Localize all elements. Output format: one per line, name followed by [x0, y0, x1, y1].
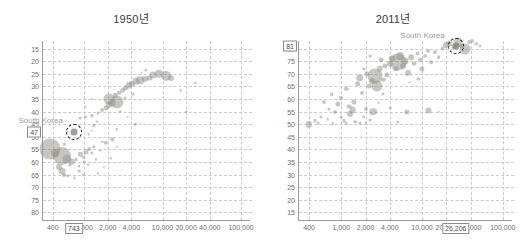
data-bubble: [117, 90, 121, 94]
chart-panel-2011: 2011년 15202530354045505560657075814001,0…: [262, 0, 524, 246]
gridline-vertical: [390, 41, 391, 220]
gridline-horizontal: [43, 61, 252, 62]
y-axis-tick-label: 15: [31, 45, 39, 52]
gridline-vertical: [446, 41, 447, 220]
data-bubble: [136, 76, 144, 84]
y-axis-tick-label: 15: [287, 209, 295, 216]
data-bubble: [94, 158, 96, 160]
gridline-horizontal: [43, 49, 252, 50]
data-bubble: [478, 44, 481, 47]
data-bubble: [396, 120, 399, 123]
y-axis-tick-label: 40: [31, 108, 39, 115]
y-axis-tick-label: 55: [31, 146, 39, 153]
data-bubble: [56, 164, 62, 170]
data-bubble: [330, 92, 334, 96]
data-bubble: [87, 163, 90, 166]
y-axis-tick-label: 80: [31, 209, 39, 216]
gridline-vertical: [131, 41, 132, 220]
x-axis-tick-label: 4,000: [123, 224, 141, 231]
data-bubble: [90, 114, 93, 117]
data-bubble: [326, 118, 329, 121]
data-bubble: [369, 119, 372, 122]
data-bubble: [147, 75, 152, 80]
gridline-horizontal: [43, 187, 252, 188]
data-bubble: [150, 71, 157, 78]
data-bubble: [115, 128, 118, 131]
data-bubble: [120, 88, 125, 93]
y-axis-tick-label: 30: [287, 171, 295, 178]
data-bubble: [126, 115, 129, 118]
chart-panel-1950: 1950년 80757065605550454035302520154001,0…: [0, 0, 262, 246]
gridline-horizontal: [299, 137, 514, 138]
data-bubble: [342, 119, 345, 122]
y-value-callout: 81: [283, 41, 297, 52]
y-axis-tick-label: 75: [287, 58, 295, 65]
x-axis-tick-label: 4,000: [381, 224, 399, 231]
gridline-horizontal: [43, 162, 252, 163]
x-value-callout: 26,206: [442, 223, 469, 234]
data-bubble: [322, 100, 326, 104]
data-bubble: [369, 55, 372, 58]
gridline-horizontal: [43, 86, 252, 87]
data-bubble: [381, 78, 385, 82]
y-axis-tick-label: 75: [31, 196, 39, 203]
data-bubble: [377, 66, 383, 72]
y-axis-tick-label: 40: [287, 146, 295, 153]
gridline-horizontal: [43, 149, 252, 150]
data-bubble: [110, 157, 112, 159]
x-axis-tick-label: 400: [303, 224, 315, 231]
y-axis-tick-label: 20: [287, 196, 295, 203]
y-axis-tick-label: 50: [287, 121, 295, 128]
gridline-vertical: [471, 41, 472, 220]
data-bubble: [133, 78, 140, 85]
gridline-horizontal: [299, 99, 514, 100]
gridline-horizontal: [299, 124, 514, 125]
data-bubble: [475, 42, 479, 46]
data-bubble: [103, 166, 105, 168]
gridline-horizontal: [299, 86, 514, 87]
y-axis-tick-label: 25: [31, 70, 39, 77]
data-bubble: [109, 99, 116, 106]
data-bubble: [437, 56, 441, 60]
gridline-horizontal: [299, 212, 514, 213]
data-bubble: [74, 158, 77, 161]
data-bubble: [393, 66, 398, 71]
y-axis-tick-label: 60: [287, 95, 295, 102]
data-bubble: [79, 116, 82, 119]
gridline-horizontal: [43, 99, 252, 100]
gridline-vertical: [163, 41, 164, 220]
data-bubble: [433, 50, 437, 54]
x-axis-tick-label: 10,000: [411, 224, 432, 231]
data-bubble: [367, 69, 382, 84]
data-bubble: [90, 129, 93, 132]
data-bubble: [77, 169, 80, 172]
data-bubble: [347, 104, 352, 109]
y-axis-tick-label: 65: [287, 83, 295, 90]
y-axis-tick-label: 55: [287, 108, 295, 115]
data-bubble: [78, 152, 82, 156]
gridline-horizontal: [43, 200, 252, 201]
data-bubble: [417, 77, 420, 80]
data-bubble: [115, 146, 117, 148]
highlight-ring: [66, 124, 82, 140]
x-axis-tick-label: 2,000: [99, 224, 117, 231]
gridline-horizontal: [299, 74, 514, 75]
y-value-callout: 47: [27, 126, 41, 137]
x-axis-tick-label: 10,000: [152, 224, 173, 231]
gridline-horizontal: [43, 212, 252, 213]
y-axis-tick-label: 20: [31, 58, 39, 65]
plot-area-2011: 15202530354045505560657075814001,0002,00…: [298, 41, 512, 221]
data-bubble: [354, 120, 358, 124]
y-axis-tick-label: 35: [287, 159, 295, 166]
gridline-horizontal: [299, 187, 514, 188]
gridline-vertical: [108, 41, 109, 220]
data-bubble: [90, 152, 93, 155]
gridline-vertical: [503, 41, 504, 220]
gridline-horizontal: [299, 149, 514, 150]
data-bubble: [145, 68, 148, 71]
y-axis-tick-label: 25: [287, 184, 295, 191]
gridline-horizontal: [299, 61, 514, 62]
x-axis-tick-label: 1,000: [332, 224, 350, 231]
data-bubble: [409, 55, 415, 61]
gridline-horizontal: [43, 175, 252, 176]
